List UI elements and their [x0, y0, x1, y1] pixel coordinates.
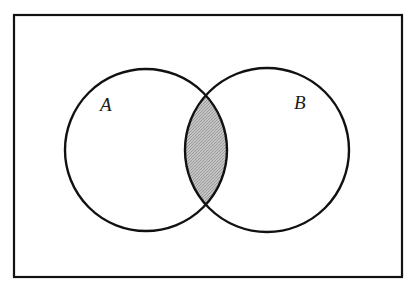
set-a-label: A: [98, 94, 112, 115]
venn-diagram: A B: [0, 0, 411, 281]
set-b-label: B: [294, 92, 306, 113]
